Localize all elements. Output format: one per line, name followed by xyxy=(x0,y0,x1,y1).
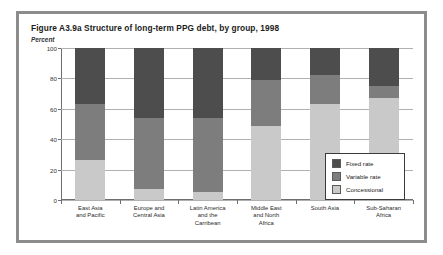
bar-segment-concessional xyxy=(251,126,281,200)
bar-segment-fixed-rate xyxy=(310,48,340,75)
bar-stack xyxy=(134,48,164,200)
legend-label: Fixed rate xyxy=(346,160,374,167)
bar-stack xyxy=(251,48,281,200)
x-tick-mark xyxy=(120,200,121,204)
figure-title: Figure A3.9a Structure of long-term PPG … xyxy=(31,23,279,33)
bar-segment-fixed-rate xyxy=(193,48,223,118)
x-axis-ticks xyxy=(61,200,413,204)
legend-item: Fixed rate xyxy=(332,159,398,168)
x-tick-mark xyxy=(237,200,238,204)
bar-stack xyxy=(193,48,223,200)
legend-label: Variable rate xyxy=(346,173,381,180)
x-axis-category-label: Middle Eastand NorthAfrica xyxy=(237,205,295,227)
x-axis-category-label: Sub-SaharanAfrica xyxy=(355,205,413,227)
x-tick-mark xyxy=(61,200,62,204)
y-tick-label: 20 xyxy=(50,166,57,173)
x-tick-mark xyxy=(178,200,179,204)
bar-segment-concessional xyxy=(193,192,223,200)
x-axis-labels: East Asiaand PacificEurope andCentral As… xyxy=(61,205,413,227)
x-axis-category-label: Latin Americaand theCarribean xyxy=(179,205,237,227)
x-axis-category-label: Europe andCentral Asia xyxy=(120,205,178,227)
legend-swatch xyxy=(332,172,341,181)
bar-segment-variable-rate xyxy=(193,118,223,192)
legend-swatch xyxy=(332,159,341,168)
legend-item: Concessional xyxy=(332,185,398,194)
bar-stack xyxy=(75,48,105,200)
legend-label: Concessional xyxy=(346,186,383,193)
figure-panel: Figure A3.9a Structure of long-term PPG … xyxy=(16,11,427,243)
bar-segment-variable-rate xyxy=(251,80,281,126)
x-tick-mark xyxy=(413,200,414,204)
bar-segment-variable-rate xyxy=(75,104,105,160)
x-axis-category-label: East Asiaand Pacific xyxy=(61,205,119,227)
y-tick-label: 100 xyxy=(47,45,57,52)
bar-segment-variable-rate xyxy=(134,118,164,189)
chart-legend: Fixed rateVariable rateConcessional xyxy=(325,153,405,200)
y-axis-unit-label: Percent xyxy=(31,36,54,43)
bar-segment-fixed-rate xyxy=(251,48,281,80)
x-axis-category-label: South Asia xyxy=(296,205,354,227)
y-tick-label: 0 xyxy=(54,197,57,204)
x-tick-mark xyxy=(354,200,355,204)
bar-segment-fixed-rate xyxy=(134,48,164,118)
bar-segment-fixed-rate xyxy=(369,48,399,86)
y-tick-label: 40 xyxy=(50,136,57,143)
bar-segment-variable-rate xyxy=(310,75,340,104)
bar-segment-fixed-rate xyxy=(75,48,105,104)
y-tick-label: 80 xyxy=(50,75,57,82)
bar-segment-concessional xyxy=(75,160,105,200)
bar-segment-concessional xyxy=(134,189,164,200)
legend-item: Variable rate xyxy=(332,172,398,181)
legend-swatch xyxy=(332,185,341,194)
bar-segment-variable-rate xyxy=(369,86,399,98)
y-tick-label: 60 xyxy=(50,105,57,112)
x-tick-mark xyxy=(296,200,297,204)
